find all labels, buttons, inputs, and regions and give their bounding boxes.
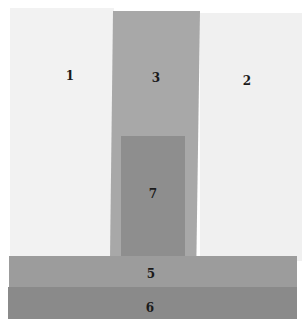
label-region-1: 1 (66, 70, 74, 82)
label-region-3: 3 (152, 72, 160, 84)
label-region-7: 7 (149, 188, 157, 200)
region-2 (200, 13, 302, 261)
diagram-canvas: 1 2 3 7 5 6 (0, 0, 305, 332)
label-region-2: 2 (243, 75, 251, 87)
region-1 (10, 8, 114, 257)
label-region-5: 5 (147, 268, 155, 280)
label-region-6: 6 (146, 302, 154, 314)
